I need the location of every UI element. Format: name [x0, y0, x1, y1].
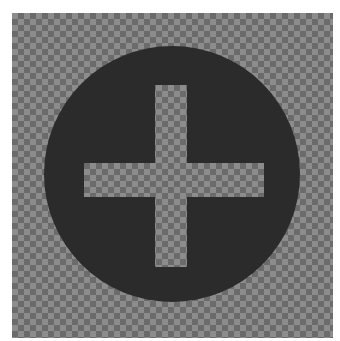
circle-shape — [44, 46, 300, 302]
image-canvas: Add icon on transparency checkerboard — [0, 0, 340, 341]
plus-circle-icon — [0, 0, 340, 341]
